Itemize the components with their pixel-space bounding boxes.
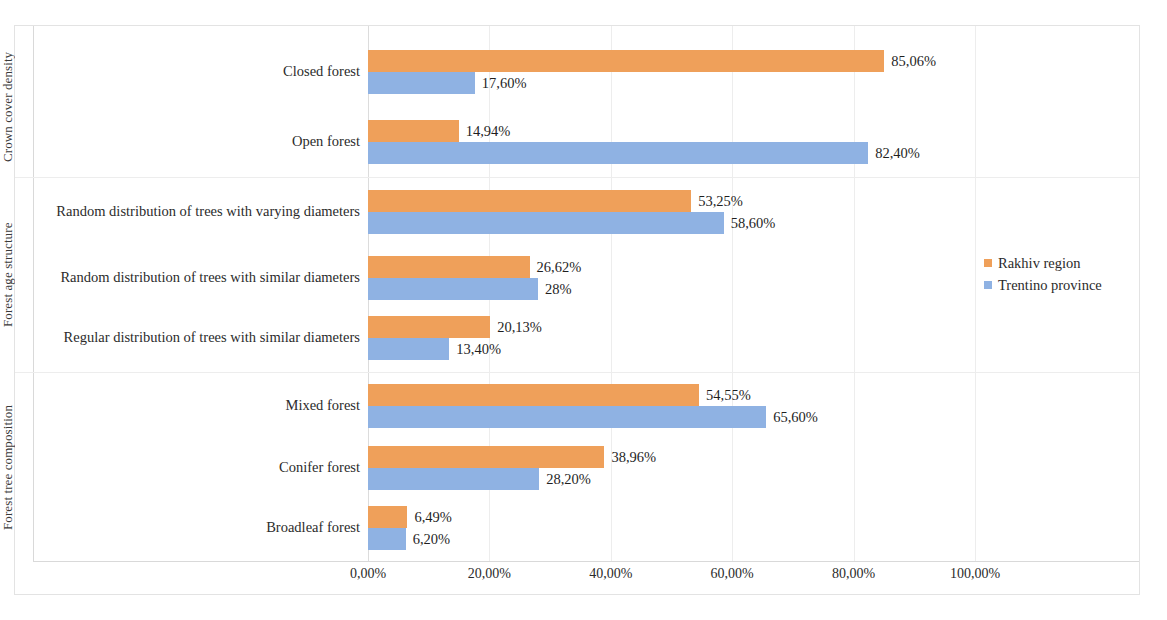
bar-rakhiv-6[interactable] [368, 446, 604, 468]
gridline-80 [854, 26, 855, 561]
group-label-crown-cover-density: Crown cover density [0, 26, 16, 188]
legend-swatch-icon-trentino [984, 281, 992, 289]
legend-item-rakhiv[interactable]: Rakhiv region [984, 252, 1102, 274]
bar-trentino-0[interactable] [368, 72, 475, 94]
group-label-forest-tree-composition: Forest tree composition [0, 360, 16, 574]
x-tick-label-40: 40,00% [589, 566, 632, 582]
bar-trentino-2[interactable] [368, 212, 724, 234]
group-separator-2 [15, 372, 1139, 373]
legend-label-trentino: Trentino province [998, 277, 1102, 294]
bar-value-trentino-4: 13,40% [456, 338, 501, 360]
category-label-6: Conifer forest [36, 459, 366, 476]
x-tick-label-20: 20,00% [468, 566, 511, 582]
category-label-7: Broadleaf forest [36, 519, 366, 536]
category-label-4: Regular distribution of trees with simil… [36, 329, 366, 346]
bar-chart: Crown cover densityForest age structureF… [0, 0, 1167, 620]
bar-value-trentino-2: 58,60% [731, 212, 776, 234]
bar-value-rakhiv-5: 54,55% [706, 384, 751, 406]
bar-value-trentino-5: 65,60% [773, 406, 818, 428]
bar-value-rakhiv-2: 53,25% [698, 190, 743, 212]
bar-rakhiv-3[interactable] [368, 256, 530, 278]
category-label-wrap-1: Open forest [36, 133, 366, 151]
bar-rakhiv-4[interactable] [368, 316, 490, 338]
bar-value-rakhiv-1: 14,94% [466, 120, 511, 142]
x-tick-label-0: 0,00% [350, 566, 386, 582]
legend-label-rakhiv: Rakhiv region [998, 255, 1081, 272]
group-separator-1 [15, 177, 1139, 178]
category-axis-line [33, 26, 34, 561]
x-tick-label-60: 60,00% [711, 566, 754, 582]
bar-rakhiv-5[interactable] [368, 384, 699, 406]
gridline-40 [611, 26, 612, 561]
category-label-wrap-6: Conifer forest [36, 459, 366, 477]
x-tick-label-80: 80,00% [832, 566, 875, 582]
bar-rakhiv-2[interactable] [368, 190, 691, 212]
legend-item-trentino[interactable]: Trentino province [984, 274, 1102, 296]
chart-frame [14, 25, 1140, 595]
legend: Rakhiv region Trentino province [984, 252, 1102, 296]
category-label-wrap-3: Random distribution of trees with simila… [36, 269, 366, 287]
bar-trentino-5[interactable] [368, 406, 766, 428]
bar-trentino-1[interactable] [368, 142, 868, 164]
bar-value-rakhiv-4: 20,13% [497, 316, 542, 338]
category-label-1: Open forest [36, 133, 366, 150]
x-tick-label-100: 100,00% [950, 566, 1000, 582]
bar-trentino-6[interactable] [368, 468, 539, 490]
plot-baseline [33, 561, 1139, 562]
bar-trentino-4[interactable] [368, 338, 449, 360]
bar-value-rakhiv-7: 6,49% [414, 506, 451, 528]
category-label-wrap-4: Regular distribution of trees with simil… [36, 329, 366, 347]
bar-rakhiv-1[interactable] [368, 120, 459, 142]
category-label-3: Random distribution of trees with simila… [36, 269, 366, 286]
bar-value-rakhiv-6: 38,96% [611, 446, 656, 468]
bar-value-trentino-1: 82,40% [875, 142, 920, 164]
bar-rakhiv-0[interactable] [368, 50, 884, 72]
category-label-2: Random distribution of trees with varyin… [36, 203, 366, 220]
bar-rakhiv-7[interactable] [368, 506, 407, 528]
bar-value-trentino-7: 6,20% [413, 528, 450, 550]
category-label-5: Mixed forest [36, 397, 366, 414]
bar-value-trentino-3: 28% [545, 278, 572, 300]
gridline-100 [975, 26, 976, 561]
bar-value-rakhiv-3: 26,62% [537, 256, 582, 278]
gridline-60 [732, 26, 733, 561]
bar-value-trentino-0: 17,60% [482, 72, 527, 94]
category-label-wrap-5: Mixed forest [36, 397, 366, 415]
group-label-forest-age-structure: Forest age structure [0, 166, 16, 384]
category-label-0: Closed forest [36, 63, 366, 80]
category-label-wrap-7: Broadleaf forest [36, 519, 366, 537]
category-label-wrap-0: Closed forest [36, 63, 366, 81]
bar-value-rakhiv-0: 85,06% [891, 50, 936, 72]
bar-value-trentino-6: 28,20% [546, 468, 591, 490]
bar-trentino-3[interactable] [368, 278, 538, 300]
bar-trentino-7[interactable] [368, 528, 406, 550]
category-label-wrap-2: Random distribution of trees with varyin… [36, 203, 366, 221]
legend-swatch-icon-rakhiv [984, 259, 992, 267]
